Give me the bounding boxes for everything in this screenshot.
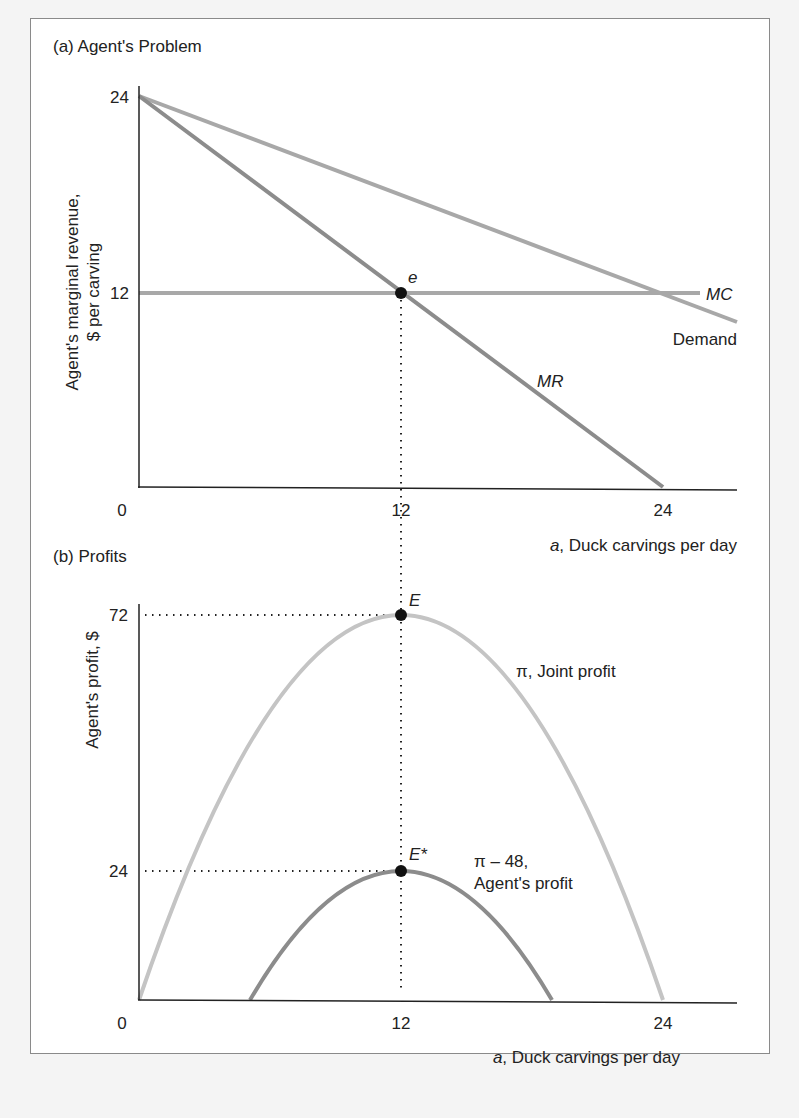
label-E-star: E* [409,845,428,864]
label-agent-profit-1: π – 48, [474,852,528,871]
svg-text:Agent's marginal revenue,: Agent's marginal revenue, [63,194,82,391]
panel-b-title: (b) Profits [53,547,127,566]
label-e: e [408,268,417,287]
xtick-24-b: 24 [654,1014,673,1033]
label-agent-profit-2: Agent's profit [474,874,573,893]
ytick-24: 24 [110,88,129,107]
label-E: E [409,591,421,610]
panel-a-x-axis [138,487,737,490]
point-E-star [395,865,407,877]
panel-a-title: (a) Agent's Problem [53,37,202,56]
ytick-24-b: 24 [109,862,128,881]
xtick-0-a: 0 [117,501,126,520]
svg-text:$ per carving: $ per carving [84,243,103,341]
xtick-24-a: 24 [654,501,673,520]
panel-b-ylabel: Agent's profit, $ [83,631,102,749]
xtick-12-a: 12 [392,501,411,520]
label-mr: MR [537,372,563,391]
point-E [395,609,407,621]
panel-a-xlabel: a, Duck carvings per day [550,536,738,555]
label-demand: Demand [673,330,737,349]
label-mc: MC [706,285,733,304]
label-joint-profit: π, Joint profit [516,662,616,681]
point-e [395,287,407,299]
ytick-72: 72 [109,606,128,625]
ytick-12: 12 [110,284,129,303]
xtick-12-b: 12 [392,1014,411,1033]
demand-curve [139,96,737,322]
xtick-0-b: 0 [117,1014,126,1033]
figure-canvas: (a) Agent's Problem Agent's marginal rev… [0,0,799,1118]
panel-b-x-axis [138,1000,737,1003]
panel-b-xlabel: a, Duck carvings per day [493,1048,681,1067]
panel-a-ylabel: Agent's marginal revenue, $ per carving [63,194,103,391]
